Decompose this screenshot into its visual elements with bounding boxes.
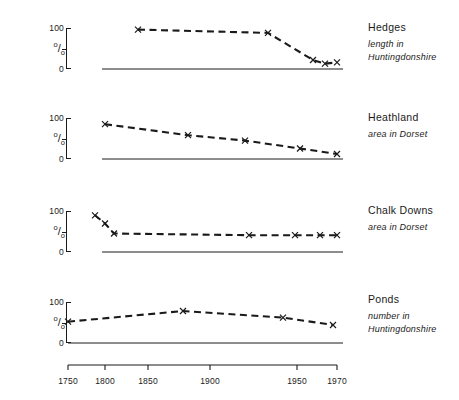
series-markers-hedges — [135, 27, 340, 67]
panel-subtitle-ponds-line1: number in — [368, 311, 459, 321]
x-axis-label-1750: 1750 — [58, 376, 78, 386]
series-line-heathland — [105, 124, 337, 154]
caption-chalk-downs: Chalk Downs area in Dorset — [368, 204, 459, 232]
chart-panel-ponds: 100 0 o/o Ponds number in Huntingdonshir — [0, 302, 459, 343]
panel-subtitle-chalk-downs-line1: area in Dorset — [368, 222, 459, 232]
series-line-hedges — [138, 30, 337, 64]
panel-subtitle-heathland-line1: area in Dorset — [368, 129, 459, 139]
panel-title-heathland: Heathland — [368, 111, 459, 123]
series-line-ponds — [68, 311, 333, 325]
x-axis-label-1900: 1900 — [200, 376, 220, 386]
chart-panel-hedges: 100 0 o/o Hedg — [0, 28, 459, 69]
caption-ponds: Ponds number in Huntingdonshire — [368, 293, 459, 334]
x-axis-label-1800: 1800 — [95, 376, 115, 386]
x-axis-label-1850: 1850 — [138, 376, 158, 386]
chart-panel-heathland: 100 0 o/o Heathland area in Dorset — [0, 118, 459, 159]
caption-hedges: Hedges length in Huntingdonshire — [368, 21, 459, 62]
panel-subtitle-ponds-line2: Huntingdonshire — [368, 324, 459, 334]
x-axis-ticks — [68, 365, 337, 370]
panel-title-ponds: Ponds — [368, 293, 459, 305]
panel-title-chalk-downs: Chalk Downs — [368, 204, 459, 216]
panel-title-hedges: Hedges — [368, 21, 459, 33]
x-axis: 1750 1800 1850 1900 1950 1970 — [0, 364, 459, 400]
panel-subtitle-hedges-line2: Huntingdonshire — [368, 52, 459, 62]
series-line-chalk-downs — [95, 215, 337, 235]
x-axis-label-1970: 1970 — [327, 376, 347, 386]
multi-panel-line-chart: 100 0 o/o Hedg — [0, 0, 459, 400]
caption-heathland: Heathland area in Dorset — [368, 111, 459, 139]
x-axis-label-1950: 1950 — [287, 376, 307, 386]
chart-panel-chalk-downs: 100 0 o/o Chalk Dow — [0, 211, 459, 252]
panel-subtitle-hedges-line1: length in — [368, 39, 459, 49]
